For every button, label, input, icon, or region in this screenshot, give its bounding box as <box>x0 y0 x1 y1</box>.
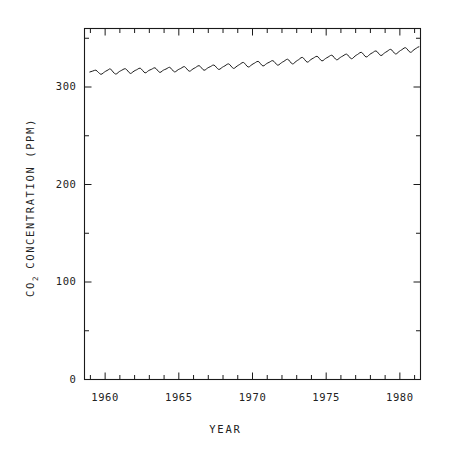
y-tick-label: 300 <box>33 80 77 92</box>
clipped-text-artifact <box>0 0 451 9</box>
x-axis-title: YEAR <box>0 423 451 435</box>
y-axis-title-suffix: CONCENTRATION (PPM) <box>24 118 36 276</box>
axis-ticks <box>85 29 421 380</box>
x-tick-label: 1975 <box>296 391 356 403</box>
x-tick-label: 1970 <box>223 391 283 403</box>
y-tick-label: 0 <box>33 373 77 385</box>
data-series-line <box>90 47 419 74</box>
x-tick-label: 1960 <box>75 391 135 403</box>
axes-frame <box>85 29 421 380</box>
plot-canvas <box>0 0 451 458</box>
x-tick-label: 1965 <box>149 391 209 403</box>
x-tick-label: 1980 <box>370 391 430 403</box>
y-tick-label: 200 <box>33 178 77 190</box>
co2-concentration-chart: CO2 CONCENTRATION (PPM) YEAR 0100200300 … <box>0 0 451 458</box>
y-tick-label: 100 <box>33 275 77 287</box>
